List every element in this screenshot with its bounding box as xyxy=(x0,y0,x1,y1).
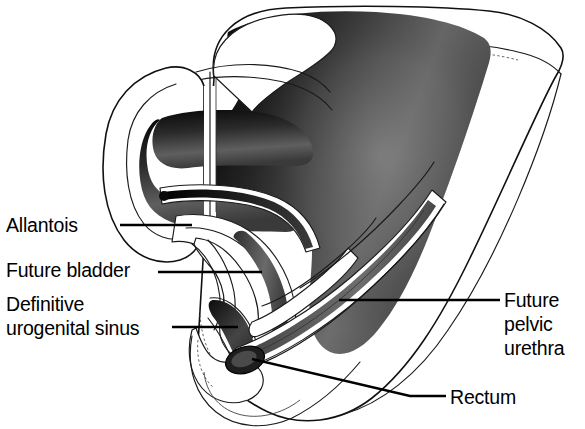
allantois-label: Allantois xyxy=(6,214,78,236)
diagram-canvas: Allantois Future bladder Definitive urog… xyxy=(0,0,585,429)
anatomical-figure: Allantois Future bladder Definitive urog… xyxy=(0,0,585,429)
definitive-urogenital-sinus-label: Definitive urogenital sinus xyxy=(6,293,140,339)
rectum-label: Rectum xyxy=(450,386,516,408)
allantois-proximal-cap xyxy=(159,191,169,201)
drawing-group xyxy=(103,6,563,425)
future-bladder-label: Future bladder xyxy=(6,259,131,281)
future-pelvic-urethra-label: Future pelvic urethra xyxy=(504,289,565,359)
